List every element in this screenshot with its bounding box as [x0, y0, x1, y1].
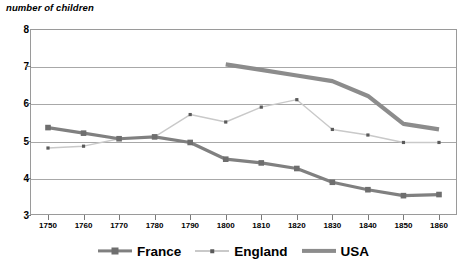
data-point-marker [260, 106, 263, 109]
series-layer [0, 0, 467, 269]
legend-label: USA [341, 244, 370, 259]
legend-line [302, 249, 336, 253]
data-point-marker [258, 160, 264, 166]
data-point-marker [402, 141, 405, 144]
data-point-marker [82, 145, 85, 148]
legend-marker [111, 248, 118, 255]
data-point-marker [365, 187, 371, 193]
data-point-marker [330, 179, 336, 185]
legend-label: France [137, 244, 181, 259]
data-point-marker [223, 156, 229, 162]
thick-line-icon [302, 245, 336, 257]
data-point-marker [401, 193, 407, 199]
data-point-marker [189, 113, 192, 116]
data-point-marker [224, 120, 227, 123]
legend-entry-england[interactable]: England [195, 244, 287, 259]
legend-marker [211, 249, 215, 253]
data-point-marker [331, 128, 334, 131]
data-point-marker [81, 130, 87, 136]
line-with-square-marker-icon [98, 245, 132, 257]
data-point-marker [45, 125, 51, 131]
series-france [45, 125, 442, 199]
chart-legend: FranceEnglandUSA [0, 240, 467, 262]
data-point-marker [46, 146, 49, 149]
data-point-marker [295, 98, 298, 101]
data-point-marker [116, 136, 122, 142]
data-point-marker [436, 192, 442, 198]
data-point-marker [366, 133, 369, 136]
series-line-usa [226, 64, 439, 129]
legend-entry-usa[interactable]: USA [302, 244, 370, 259]
line-with-small-marker-icon [195, 245, 229, 257]
series-usa [226, 64, 439, 129]
line-chart: number of children 876543 17501760177017… [0, 0, 467, 269]
legend-label: England [234, 244, 287, 259]
data-point-marker [437, 141, 440, 144]
legend-entry-france[interactable]: France [98, 244, 181, 259]
data-point-marker [152, 134, 158, 140]
data-point-marker [294, 166, 300, 172]
data-point-marker [187, 140, 193, 146]
